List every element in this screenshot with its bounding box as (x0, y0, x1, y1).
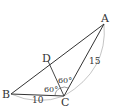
measure-bc: 10 (32, 95, 44, 105)
angle-dca-label: 60° (58, 76, 72, 85)
label-a: A (100, 12, 110, 25)
measure-ac: 15 (89, 56, 101, 66)
angle-dca-arc (60, 87, 68, 88)
label-c: C (61, 96, 69, 108)
label-b: B (2, 88, 10, 101)
label-d: D (42, 52, 51, 65)
angle-bcd-label: 60° (44, 85, 58, 94)
triangle-diagram: A B C D 15 10 60° 60° (0, 0, 115, 108)
